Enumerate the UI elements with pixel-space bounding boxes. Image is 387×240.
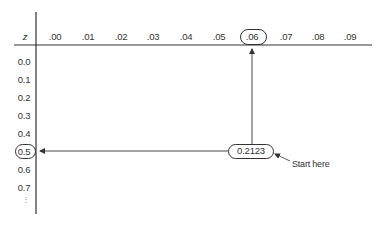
continuation-dots: ⋮ <box>22 198 30 202</box>
column-header: .04 <box>180 31 193 42</box>
column-header: .09 <box>344 31 357 42</box>
column-highlight-oval <box>240 29 267 45</box>
start-here-label: Start here <box>292 159 330 169</box>
row-label: 0.6 <box>16 164 32 175</box>
start-here-arrow <box>275 154 290 161</box>
column-header: .01 <box>82 31 95 42</box>
row-label: 0.7 <box>16 182 32 193</box>
column-header: .07 <box>280 31 293 42</box>
column-header: .00 <box>49 31 62 42</box>
column-header: .05 <box>213 31 226 42</box>
row-label: 0.3 <box>16 110 32 121</box>
row-highlight-oval <box>15 144 36 159</box>
table-value: 0.2123 <box>228 145 274 156</box>
row-label: 0.0 <box>16 56 32 67</box>
column-header: .08 <box>312 31 325 42</box>
row-label: 0.4 <box>16 128 32 139</box>
z-column-label: z <box>23 31 28 42</box>
column-header: .03 <box>147 31 160 42</box>
column-header: .02 <box>115 31 128 42</box>
row-label: 0.1 <box>16 74 32 85</box>
row-label: 0.2 <box>16 92 32 103</box>
